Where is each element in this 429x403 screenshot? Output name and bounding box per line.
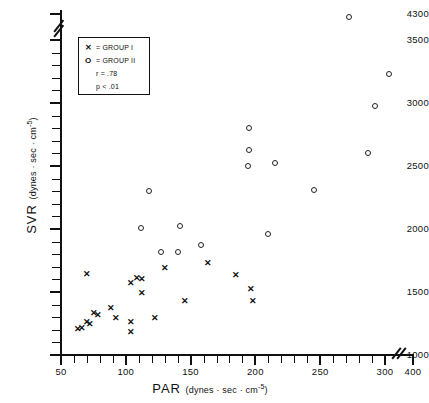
y-tick-major	[50, 291, 60, 293]
data-point-group-i: ✕	[204, 260, 211, 267]
y-tick-minor	[52, 141, 60, 142]
data-point-group-ii	[177, 223, 183, 229]
data-point-group-ii	[365, 150, 371, 156]
x-tick-major	[60, 356, 62, 365]
x-tick-label: 200	[235, 366, 275, 377]
data-point-group-ii	[265, 231, 271, 237]
y-tick-minor	[52, 53, 60, 54]
y-tick-major	[50, 102, 60, 104]
x-tick-minor	[139, 356, 140, 363]
data-point-group-ii	[158, 249, 164, 255]
data-point-group-ii	[372, 103, 378, 109]
y-tick-label: 3500	[383, 35, 429, 44]
data-point-group-i: ✕	[112, 315, 119, 322]
group-i-marker-icon: ✕	[85, 43, 96, 52]
y-tick-minor	[52, 267, 60, 268]
legend-box: ✕= GROUP IO= GROUP IIr = .78p < .01	[78, 37, 150, 95]
x-tick-minor	[333, 356, 334, 363]
x-tick-label: 150	[171, 366, 211, 377]
legend-row: ✕= GROUP I	[85, 41, 144, 54]
data-point-group-i: ✕	[94, 312, 101, 319]
data-point-group-ii	[198, 242, 204, 248]
x-tick-minor	[294, 356, 295, 363]
x-tick-minor	[229, 356, 230, 363]
y-tick-major	[50, 354, 60, 356]
y-tick-minor	[52, 216, 60, 217]
y-tick-minor	[52, 330, 60, 331]
data-point-group-ii	[311, 187, 317, 193]
data-point-group-ii	[246, 147, 252, 153]
x-tick-label: 100	[106, 366, 146, 377]
x-tick-major	[412, 356, 414, 365]
y-tick-minor	[52, 191, 60, 192]
x-tick-label: 250	[300, 366, 340, 377]
y-tick-minor	[52, 90, 60, 91]
data-point-group-i: ✕	[249, 298, 256, 305]
x-tick-minor	[372, 356, 373, 363]
data-point-group-ii	[272, 160, 278, 166]
data-point-group-i: ✕	[232, 272, 239, 279]
data-point-group-ii	[146, 188, 152, 194]
y-tick-minor	[52, 153, 60, 154]
y-tick-minor	[52, 279, 60, 280]
x-tick-minor	[281, 356, 282, 363]
x-axis-title-unit: (dynes · sec · cm-5)	[186, 385, 268, 395]
y-axis-line	[60, 10, 62, 356]
x-tick-minor	[113, 356, 114, 363]
legend-label: p < .01	[96, 83, 119, 90]
data-point-group-i: ✕	[247, 286, 254, 293]
group-ii-marker-icon: O	[85, 56, 96, 65]
x-tick-label: 400	[393, 366, 429, 377]
y-tick-label: 2000	[383, 224, 429, 233]
x-tick-major	[319, 356, 321, 365]
y-tick-label: 4300	[383, 9, 429, 18]
y-tick-minor	[52, 317, 60, 318]
y-tick-label: 1500	[383, 287, 429, 296]
data-point-group-i: ✕	[127, 329, 134, 336]
x-tick-major	[254, 356, 256, 365]
x-tick-minor	[242, 356, 243, 363]
x-tick-minor	[100, 356, 101, 363]
x-tick-minor	[307, 356, 308, 363]
y-tick-minor	[52, 204, 60, 205]
x-tick-major	[384, 356, 386, 365]
y-axis-break-icon	[54, 22, 68, 36]
data-point-group-ii	[386, 71, 392, 77]
data-point-group-i: ✕	[86, 321, 93, 328]
x-tick-minor	[346, 356, 347, 363]
data-point-group-ii	[245, 163, 251, 169]
data-point-group-i: ✕	[138, 276, 145, 283]
x-axis-title: PAR (dynes · sec · cm-5)	[60, 381, 360, 396]
x-tick-label: 50	[41, 366, 81, 377]
y-tick-minor	[52, 254, 60, 255]
x-tick-minor	[87, 356, 88, 363]
data-point-group-i: ✕	[161, 265, 168, 272]
x-tick-minor	[165, 356, 166, 363]
x-axis-title-main: PAR	[152, 381, 181, 396]
data-point-group-ii	[246, 125, 252, 131]
legend-row: r = .78	[85, 67, 144, 80]
data-point-group-i: ✕	[83, 271, 90, 278]
y-tick-minor	[52, 342, 60, 343]
y-axis-title: SVR (dynes · sec · cm-5)	[24, 101, 39, 251]
legend-label: r = .78	[96, 70, 117, 77]
y-axis-title-unit: (dynes · sec · cm-5)	[28, 117, 38, 199]
x-tick-minor	[204, 356, 205, 363]
y-tick-minor	[52, 116, 60, 117]
legend-row: p < .01	[85, 80, 144, 93]
scatter-plot-figure: 1000150020002500300035004300 50100150200…	[0, 0, 429, 403]
y-tick-minor	[52, 78, 60, 79]
legend-label: = GROUP II	[96, 57, 135, 64]
y-tick-minor	[52, 65, 60, 66]
x-tick-minor	[359, 356, 360, 363]
y-tick-major	[50, 13, 60, 15]
legend-row: O= GROUP II	[85, 54, 144, 67]
y-tick-major	[50, 165, 60, 167]
y-tick-label: 2500	[383, 161, 429, 170]
y-tick-minor	[52, 128, 60, 129]
y-tick-minor	[52, 242, 60, 243]
x-tick-minor	[178, 356, 179, 363]
x-tick-minor	[268, 356, 269, 363]
y-axis-title-main: SVR	[24, 204, 39, 234]
x-tick-minor	[74, 356, 75, 363]
